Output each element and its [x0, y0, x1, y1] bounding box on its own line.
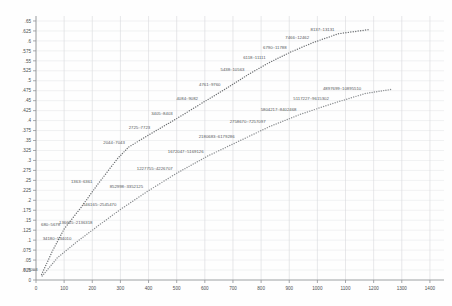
data-point-label: 8::5003 — [23, 267, 38, 272]
x-tick-label: 600 — [201, 286, 209, 291]
data-point — [166, 124, 167, 125]
data-point — [128, 203, 129, 204]
data-point — [209, 154, 210, 155]
data-point — [355, 96, 356, 97]
data-point — [388, 89, 389, 90]
data-point — [159, 183, 160, 184]
data-point — [75, 242, 76, 243]
data-point — [144, 192, 145, 193]
data-point-label: 1363::6361 — [71, 179, 93, 184]
data-point — [64, 251, 65, 252]
data-point — [96, 226, 97, 227]
data-point — [385, 90, 386, 91]
data-point-label: 7466::12462 — [285, 35, 310, 40]
data-point — [92, 191, 93, 192]
data-point — [100, 223, 101, 224]
data-point — [104, 220, 105, 221]
data-point — [189, 110, 190, 111]
data-point — [353, 31, 354, 32]
data-point — [207, 99, 208, 100]
data-point — [52, 249, 53, 250]
data-point — [160, 127, 161, 128]
data-point — [57, 241, 58, 242]
data-point — [303, 46, 304, 47]
data-point — [137, 141, 138, 142]
data-point — [187, 111, 188, 112]
data-point — [292, 50, 293, 51]
data-point — [99, 181, 100, 182]
data-point — [168, 123, 169, 124]
data-point — [322, 39, 323, 40]
data-point — [269, 126, 270, 127]
data-point — [184, 113, 185, 114]
data-point — [254, 70, 255, 71]
data-point — [60, 254, 61, 255]
data-point — [197, 105, 198, 106]
data-point — [62, 230, 63, 231]
data-point — [337, 101, 338, 102]
data-point — [178, 171, 179, 172]
data-point — [115, 160, 116, 161]
y-tick-label: .1 — [27, 238, 31, 243]
data-point — [94, 187, 95, 188]
data-point — [130, 145, 131, 146]
data-point — [300, 114, 301, 115]
data-point — [190, 164, 191, 165]
y-tick-label: .55 — [25, 59, 32, 64]
data-point — [231, 144, 232, 145]
data-point — [149, 134, 150, 135]
data-point — [236, 142, 237, 143]
data-point — [236, 81, 237, 82]
data-point — [222, 148, 223, 149]
data-point — [90, 231, 91, 232]
data-point — [66, 250, 67, 251]
data-point — [90, 193, 91, 194]
y-tick-label: .075 — [22, 248, 31, 253]
data-point — [234, 82, 235, 83]
y-tick-label: .575 — [22, 49, 31, 54]
data-point — [94, 228, 95, 229]
data-point — [225, 147, 226, 148]
data-point-label: 2725::7723 — [129, 125, 151, 130]
data-point — [56, 243, 57, 244]
data-point — [69, 247, 70, 248]
data-point-label: 8137::13131 — [311, 27, 336, 32]
x-tick-label: 1200 — [369, 286, 380, 291]
data-point — [55, 259, 56, 260]
data-point — [77, 211, 78, 212]
data-point — [48, 258, 49, 259]
data-point — [329, 36, 330, 37]
data-point — [143, 137, 144, 138]
data-point — [96, 185, 97, 186]
data-point — [178, 117, 179, 118]
data-point — [140, 195, 141, 196]
data-point — [284, 120, 285, 121]
data-point — [120, 154, 121, 155]
data-point — [252, 71, 253, 72]
data-point — [126, 205, 127, 206]
data-point — [244, 76, 245, 77]
data-point — [312, 42, 313, 43]
data-point — [314, 109, 315, 110]
y-tick-label: .3 — [27, 158, 31, 163]
data-point — [278, 122, 279, 123]
y-tick-label: .275 — [22, 168, 31, 173]
data-point — [281, 55, 282, 56]
data-point — [199, 160, 200, 161]
data-point — [77, 241, 78, 242]
data-point — [162, 126, 163, 127]
data-point — [253, 133, 254, 134]
data-point — [80, 207, 81, 208]
data-point — [271, 125, 272, 126]
data-point — [331, 35, 332, 36]
y-tick-label: .15 — [25, 218, 32, 223]
data-point — [142, 194, 143, 195]
data-point — [205, 156, 206, 157]
data-point-label: 5438::10563 — [221, 67, 246, 72]
data-point-label: 2180683::6179286 — [199, 134, 235, 139]
data-point — [369, 92, 370, 93]
data-point — [88, 232, 89, 233]
data-point — [109, 168, 110, 169]
data-point — [288, 52, 289, 53]
data-point — [122, 153, 123, 154]
